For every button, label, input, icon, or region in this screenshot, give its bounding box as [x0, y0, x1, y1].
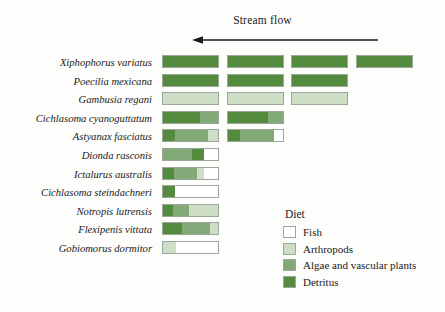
species-row: Dionda rasconis — [0, 148, 445, 167]
legend-title: Diet — [283, 208, 416, 220]
bar-segment — [292, 56, 347, 67]
stacked-bar — [162, 204, 219, 217]
bar-segment — [228, 75, 283, 86]
bar-segment — [189, 205, 218, 216]
bar-segment — [357, 56, 412, 67]
legend-swatch — [283, 226, 296, 238]
legend: Diet FishArthropodsAlgae and vascular pl… — [283, 208, 416, 290]
legend-label: Algae and vascular plants — [303, 259, 416, 271]
species-label: Flexipenis vittata — [0, 223, 152, 236]
bar-segment — [210, 223, 218, 234]
bar-segment — [240, 130, 274, 141]
species-label: Xiphophorus variatus — [0, 56, 152, 69]
bar-segment — [163, 168, 174, 179]
bar-segment — [204, 168, 218, 179]
species-row: Poecilia mexicana — [0, 74, 445, 93]
stacked-bar — [227, 92, 284, 105]
species-label: Cichlasoma cyanoguttatum — [0, 112, 152, 125]
bar-segment — [163, 130, 175, 141]
legend-swatch — [283, 243, 296, 255]
legend-item: Algae and vascular plants — [283, 257, 416, 274]
bar-segment — [176, 242, 218, 253]
stacked-bar — [162, 222, 219, 235]
legend-swatch — [283, 276, 296, 288]
species-label: Gobiomorus dormitor — [0, 242, 152, 255]
legend-label: Fish — [303, 226, 322, 238]
diet-composition-figure: Stream flow Xiphophorus variatusPoecilia… — [0, 0, 445, 312]
species-row: Gambusia regani — [0, 92, 445, 111]
bar-segment — [292, 93, 347, 104]
stacked-bar — [227, 129, 284, 142]
bar-segment — [200, 112, 218, 123]
stacked-bar — [162, 55, 219, 68]
bar-segment — [292, 75, 347, 86]
bar-segment — [163, 75, 218, 86]
bar-segment — [192, 149, 204, 160]
stacked-bar — [162, 148, 219, 161]
bar-segment — [163, 56, 218, 67]
stacked-bar — [162, 129, 219, 142]
bar-segment — [163, 223, 182, 234]
bar-segment — [274, 130, 283, 141]
legend-item: Detritus — [283, 274, 416, 291]
legend-item: Arthropods — [283, 241, 416, 258]
left-arrow-icon — [192, 35, 378, 45]
stream-flow-title: Stream flow — [0, 14, 445, 26]
bar-segment — [163, 93, 218, 104]
bar-segment — [197, 168, 204, 179]
stacked-bar — [162, 74, 219, 87]
legend-label: Detritus — [303, 276, 338, 288]
bar-segment — [163, 205, 173, 216]
species-label: Notropis lutrensis — [0, 205, 152, 218]
bar-segment — [175, 186, 218, 197]
stacked-bar — [227, 111, 284, 124]
legend-label: Arthropods — [303, 243, 353, 255]
bar-segment — [204, 149, 218, 160]
stacked-bar — [162, 167, 219, 180]
stacked-bar — [162, 111, 219, 124]
stacked-bar — [162, 241, 219, 254]
bar-segment — [228, 130, 240, 141]
bar-segment — [175, 130, 208, 141]
bar-segment — [174, 168, 197, 179]
species-row: Cichlasoma steindachneri — [0, 185, 445, 204]
stacked-bar — [227, 55, 284, 68]
legend-swatch — [283, 259, 296, 271]
bar-segment — [163, 149, 192, 160]
stacked-bar — [291, 55, 348, 68]
stacked-bar — [162, 92, 219, 105]
species-label: Astyanax fasciatus — [0, 130, 152, 143]
stream-flow-label: Stream flow — [233, 14, 292, 26]
species-row: Xiphophorus variatus — [0, 55, 445, 74]
species-label: Dionda rasconis — [0, 149, 152, 162]
species-label: Ictalurus australis — [0, 168, 152, 181]
species-label: Cichlasoma steindachneri — [0, 186, 152, 199]
legend-items: FishArthropodsAlgae and vascular plantsD… — [283, 224, 416, 290]
stacked-bar — [291, 74, 348, 87]
species-label: Poecilia mexicana — [0, 75, 152, 88]
stacked-bar — [227, 74, 284, 87]
bar-segment — [228, 56, 283, 67]
bar-segment — [182, 223, 211, 234]
stacked-bar — [291, 92, 348, 105]
legend-item: Fish — [283, 224, 416, 241]
species-row: Cichlasoma cyanoguttatum — [0, 111, 445, 130]
species-row: Ictalurus australis — [0, 167, 445, 186]
bar-segment — [228, 112, 268, 123]
species-row: Astyanax fasciatus — [0, 129, 445, 148]
bar-segment — [163, 112, 200, 123]
bar-segment — [208, 130, 218, 141]
stacked-bar — [162, 185, 219, 198]
bar-segment — [268, 112, 283, 123]
bar-segment — [163, 186, 175, 197]
bar-segment — [163, 242, 176, 253]
stacked-bar — [356, 55, 413, 68]
bar-segment — [228, 93, 283, 104]
bar-segment — [173, 205, 190, 216]
species-label: Gambusia regani — [0, 93, 152, 106]
